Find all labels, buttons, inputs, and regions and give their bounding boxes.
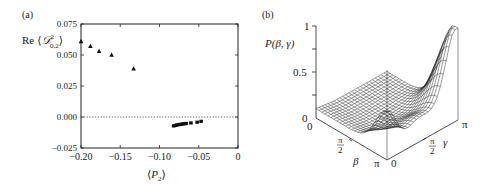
- triangle-marker: [131, 66, 136, 70]
- figure: (a) −0.20−0.15−0.10−0.050−0.0250.0000.02…: [0, 0, 493, 185]
- y-tick-label: −0.025: [52, 143, 78, 153]
- gamma-tick-label: π: [430, 136, 435, 146]
- y-tick-label: 0.025: [57, 81, 78, 91]
- panel-b-label: (b): [262, 9, 274, 21]
- beta-axis: [316, 118, 387, 160]
- beta-axis-label: β: [352, 155, 359, 167]
- gamma-tick: [423, 138, 426, 140]
- triangle-marker: [79, 39, 84, 43]
- beta-tick-label: 2: [338, 145, 343, 155]
- x-tick-label: −0.05: [187, 151, 210, 162]
- z-axis-label: P(β, γ): [264, 37, 295, 50]
- gamma-tick-label: 2: [430, 146, 435, 156]
- y-axis-label: Re⟨𝒟20,2⟩: [22, 33, 63, 50]
- mesh-line: [349, 93, 420, 119]
- square-marker: [184, 122, 188, 125]
- mesh-line: [387, 28, 458, 129]
- x-axis-label: ⟨P2⟩: [147, 168, 166, 183]
- panel-b: (b) P(β, γ) 1 0.5 0 0 π 2 β π 0 π 2 γ π: [262, 9, 468, 169]
- beta-tick-label: π: [374, 157, 380, 169]
- x-tick-label: −0.15: [109, 151, 132, 162]
- y-tick-label: 0.000: [57, 112, 78, 122]
- triangle-marker: [97, 49, 102, 53]
- x-tick-label: 0: [236, 151, 241, 162]
- axis-ticks-a: [81, 24, 238, 148]
- data-points-a: [79, 39, 203, 128]
- square-marker: [189, 121, 193, 124]
- y-tick-label: 0.075: [57, 19, 78, 29]
- gamma-axis-label: γ: [443, 136, 448, 148]
- square-marker: [199, 120, 203, 123]
- z-tick-label: 1: [304, 20, 310, 32]
- triangle-marker: [109, 53, 114, 57]
- beta-tick-label: 0: [307, 120, 313, 132]
- x-tick-label: −0.10: [148, 151, 171, 162]
- gamma-tick-label: π: [462, 118, 468, 130]
- tick-labels-a: −0.20−0.15−0.10−0.050−0.0250.0000.0250.0…: [52, 19, 241, 162]
- mesh-line: [366, 66, 437, 131]
- plot-frame-a: [81, 24, 238, 148]
- mesh-line: [381, 35, 452, 92]
- beta-tick-label: π: [338, 135, 343, 145]
- triangle-marker: [88, 44, 93, 48]
- z-tick-label: 0.5: [293, 66, 307, 78]
- y-tick-label: 0.050: [57, 50, 78, 60]
- gamma-tick-label: 0: [391, 157, 397, 169]
- mesh-line: [384, 28, 455, 90]
- panel-a-label: (a): [22, 9, 33, 21]
- panel-a: (a) −0.20−0.15−0.10−0.050−0.0250.0000.02…: [22, 9, 241, 183]
- square-marker: [195, 121, 199, 124]
